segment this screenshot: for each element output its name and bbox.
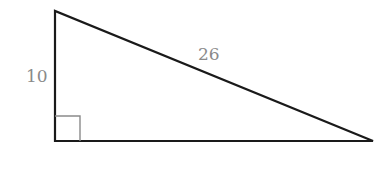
triangle-diagram: 10 26 bbox=[0, 0, 389, 170]
vertical-leg-label: 10 bbox=[26, 66, 48, 86]
right-triangle bbox=[55, 11, 373, 141]
hypotenuse-label: 26 bbox=[198, 44, 220, 64]
right-angle-marker bbox=[55, 116, 80, 141]
